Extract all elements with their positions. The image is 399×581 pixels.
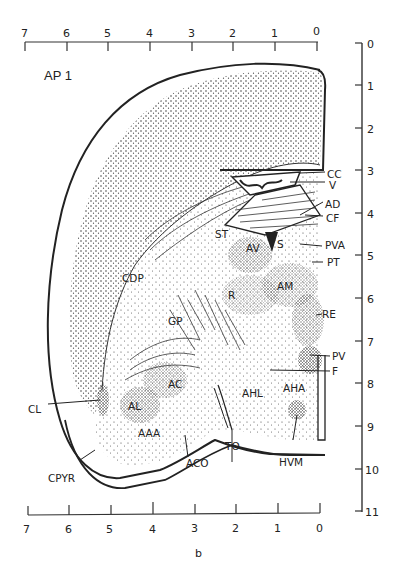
bottom-tick-5: 5 bbox=[106, 523, 113, 536]
top-tick-2: 2 bbox=[229, 27, 236, 40]
label-pv: PV bbox=[332, 350, 346, 362]
label-s: S bbox=[277, 238, 284, 250]
right-tick-0: 0 bbox=[367, 38, 374, 51]
label-pva: PVA bbox=[325, 239, 346, 251]
label-v: V bbox=[329, 179, 337, 191]
label-st: ST bbox=[215, 228, 229, 240]
top-tick-4: 4 bbox=[146, 27, 153, 40]
label-to: TO bbox=[224, 440, 240, 452]
label-hvm: HVM bbox=[279, 456, 303, 468]
bottom-tick-2: 2 bbox=[232, 522, 239, 535]
top-tick-7: 7 bbox=[21, 27, 28, 40]
label-aaa: AAA bbox=[138, 427, 161, 439]
label-ahl: AHL bbox=[242, 387, 263, 399]
label-aha: AHA bbox=[283, 382, 306, 394]
nucleus-re bbox=[292, 294, 324, 346]
label-aco: ACO bbox=[186, 457, 209, 469]
right-tick-10: 10 bbox=[365, 464, 379, 477]
label-cpyr: CPYR bbox=[48, 472, 75, 484]
label-pt: PT bbox=[327, 256, 340, 268]
figure-caption: b bbox=[195, 547, 202, 560]
top-tick-0: 0 bbox=[313, 25, 320, 38]
label-cdp: CDP bbox=[122, 272, 144, 284]
right-tick-2: 2 bbox=[367, 123, 374, 136]
bottom-tick-0: 0 bbox=[316, 522, 323, 535]
label-al: AL bbox=[128, 400, 141, 412]
label-av: AV bbox=[246, 242, 261, 254]
section-title: AP 1 bbox=[44, 68, 72, 83]
bottom-axis: 7 6 5 4 3 2 1 0 bbox=[23, 502, 323, 536]
label-r: R bbox=[228, 289, 235, 301]
right-tick-4: 4 bbox=[367, 208, 374, 221]
bottom-tick-3: 3 bbox=[191, 522, 198, 535]
brain-atlas-diagram: 7 6 5 4 3 2 1 0 7 6 5 4 3 2 1 0 bbox=[0, 0, 399, 581]
right-tick-6: 6 bbox=[367, 293, 374, 306]
right-tick-3: 3 bbox=[367, 165, 374, 178]
top-tick-6: 6 bbox=[63, 27, 70, 40]
right-axis: 0 1 2 3 4 5 6 7 8 9 10 11 bbox=[355, 38, 379, 519]
right-tick-1: 1 bbox=[367, 80, 374, 93]
top-tick-1: 1 bbox=[271, 27, 278, 40]
label-gp: GP bbox=[168, 315, 182, 327]
right-tick-9: 9 bbox=[367, 421, 374, 434]
bottom-tick-6: 6 bbox=[65, 523, 72, 536]
top-tick-3: 3 bbox=[188, 27, 195, 40]
label-f: F bbox=[332, 365, 338, 377]
label-ac: AC bbox=[168, 378, 182, 390]
label-cf: CF bbox=[326, 212, 339, 224]
label-ad: AD bbox=[325, 198, 340, 210]
bottom-tick-7: 7 bbox=[23, 523, 30, 536]
right-tick-11: 11 bbox=[365, 506, 379, 519]
label-am: AM bbox=[277, 280, 293, 292]
label-cl: CL bbox=[28, 403, 41, 415]
top-tick-5: 5 bbox=[104, 27, 111, 40]
bottom-tick-4: 4 bbox=[149, 523, 156, 536]
right-tick-5: 5 bbox=[367, 250, 374, 263]
label-re: RE bbox=[322, 308, 336, 320]
bottom-tick-1: 1 bbox=[274, 522, 281, 535]
top-axis: 7 6 5 4 3 2 1 0 bbox=[21, 25, 320, 51]
right-tick-8: 8 bbox=[367, 378, 374, 391]
right-tick-7: 7 bbox=[367, 336, 374, 349]
